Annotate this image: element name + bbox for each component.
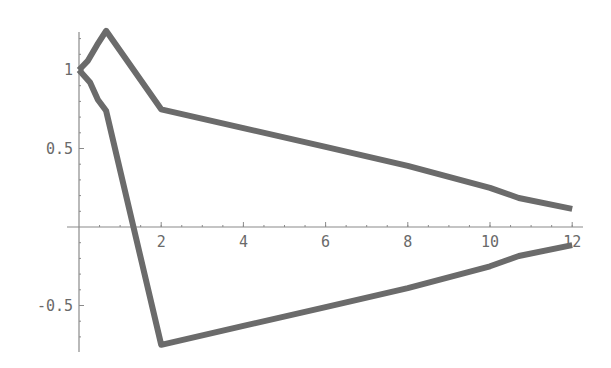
y-tick-label: 0.5 [46, 140, 73, 158]
x-tick-label: 8 [403, 233, 412, 251]
x-ticks: 24681012 [100, 222, 582, 251]
x-tick-label: 4 [239, 233, 248, 251]
x-tick-label: 10 [481, 233, 499, 251]
series-layer [79, 31, 572, 345]
x-tick-label: 6 [321, 233, 330, 251]
line-chart: 24681012 10.5-0.5 [0, 0, 611, 368]
y-tick-label: -0.5 [37, 297, 73, 315]
series-line-upper [79, 31, 572, 209]
y-tick-label: 1 [64, 61, 73, 79]
y-ticks: 10.5-0.5 [37, 39, 84, 337]
x-tick-label: 2 [157, 233, 166, 251]
series-line-lower [79, 70, 572, 345]
